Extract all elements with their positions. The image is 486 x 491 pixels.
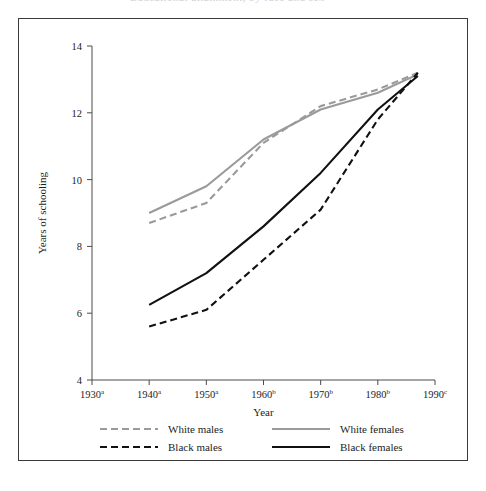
cropped-caption-strip: Educational attainment, by race and sex xyxy=(0,0,486,11)
cropped-caption-text: Educational attainment, by race and sex xyxy=(130,0,325,3)
figure-container: Educational attainment, by race and sex … xyxy=(0,0,486,491)
chart-frame-border xyxy=(18,18,468,461)
